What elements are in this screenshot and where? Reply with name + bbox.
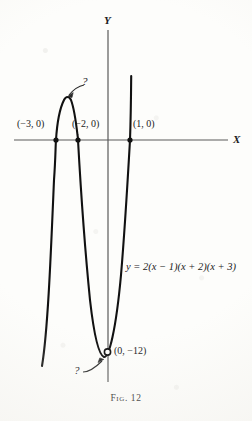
x-axis-label: X — [233, 133, 240, 145]
y-intercept-marker — [104, 349, 110, 355]
figure-page: Y X (−3, 0) (−2, 0) (1, 0) (0, −12) y = … — [0, 0, 252, 421]
annotation-arrow-bottom-shaft — [83, 361, 102, 372]
root-marker-neg2 — [75, 137, 80, 142]
root-marker-neg3 — [53, 137, 58, 142]
annotation-question-bottom: ? — [74, 364, 80, 376]
label-root-neg3: (−3, 0) — [17, 118, 44, 129]
cubic-graph-plot — [0, 0, 252, 421]
annotation-question-top: ? — [82, 75, 88, 87]
y-axis-label: Y — [104, 14, 111, 26]
root-marker-pos1 — [127, 137, 132, 142]
equation-label: y = 2(x − 1)(x + 2)(x + 3) — [126, 261, 236, 272]
label-root-neg2: (−2, 0) — [72, 118, 99, 129]
figure-caption: Fig. 12 — [0, 393, 252, 403]
label-root-pos1: (1, 0) — [133, 118, 155, 129]
label-y-intercept: (0, −12) — [114, 345, 146, 356]
